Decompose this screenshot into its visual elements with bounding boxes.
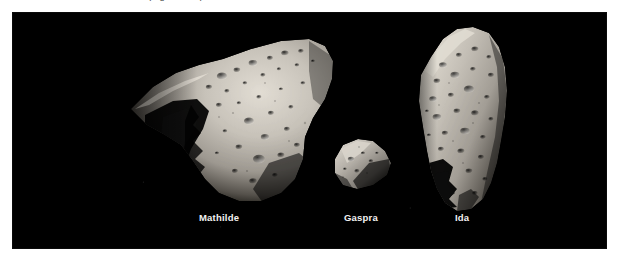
asteroid-mathilde — [131, 39, 335, 203]
caption-sliver: (Figure 1.11) — [0, 0, 618, 12]
asteroid-comparison-photo: Mathilde Gaspra Ida — [13, 13, 606, 248]
asteroid-label-gaspra: Gaspra — [344, 212, 378, 223]
asteroid-ida — [419, 27, 507, 211]
asteroid-label-ida: Ida — [455, 212, 469, 223]
caption-text: (Figure 1.11) — [148, 0, 203, 1]
asteroid-gaspra — [335, 139, 391, 191]
asteroid-scene-graphic — [13, 13, 606, 248]
asteroid-label-mathilde: Mathilde — [199, 212, 239, 223]
